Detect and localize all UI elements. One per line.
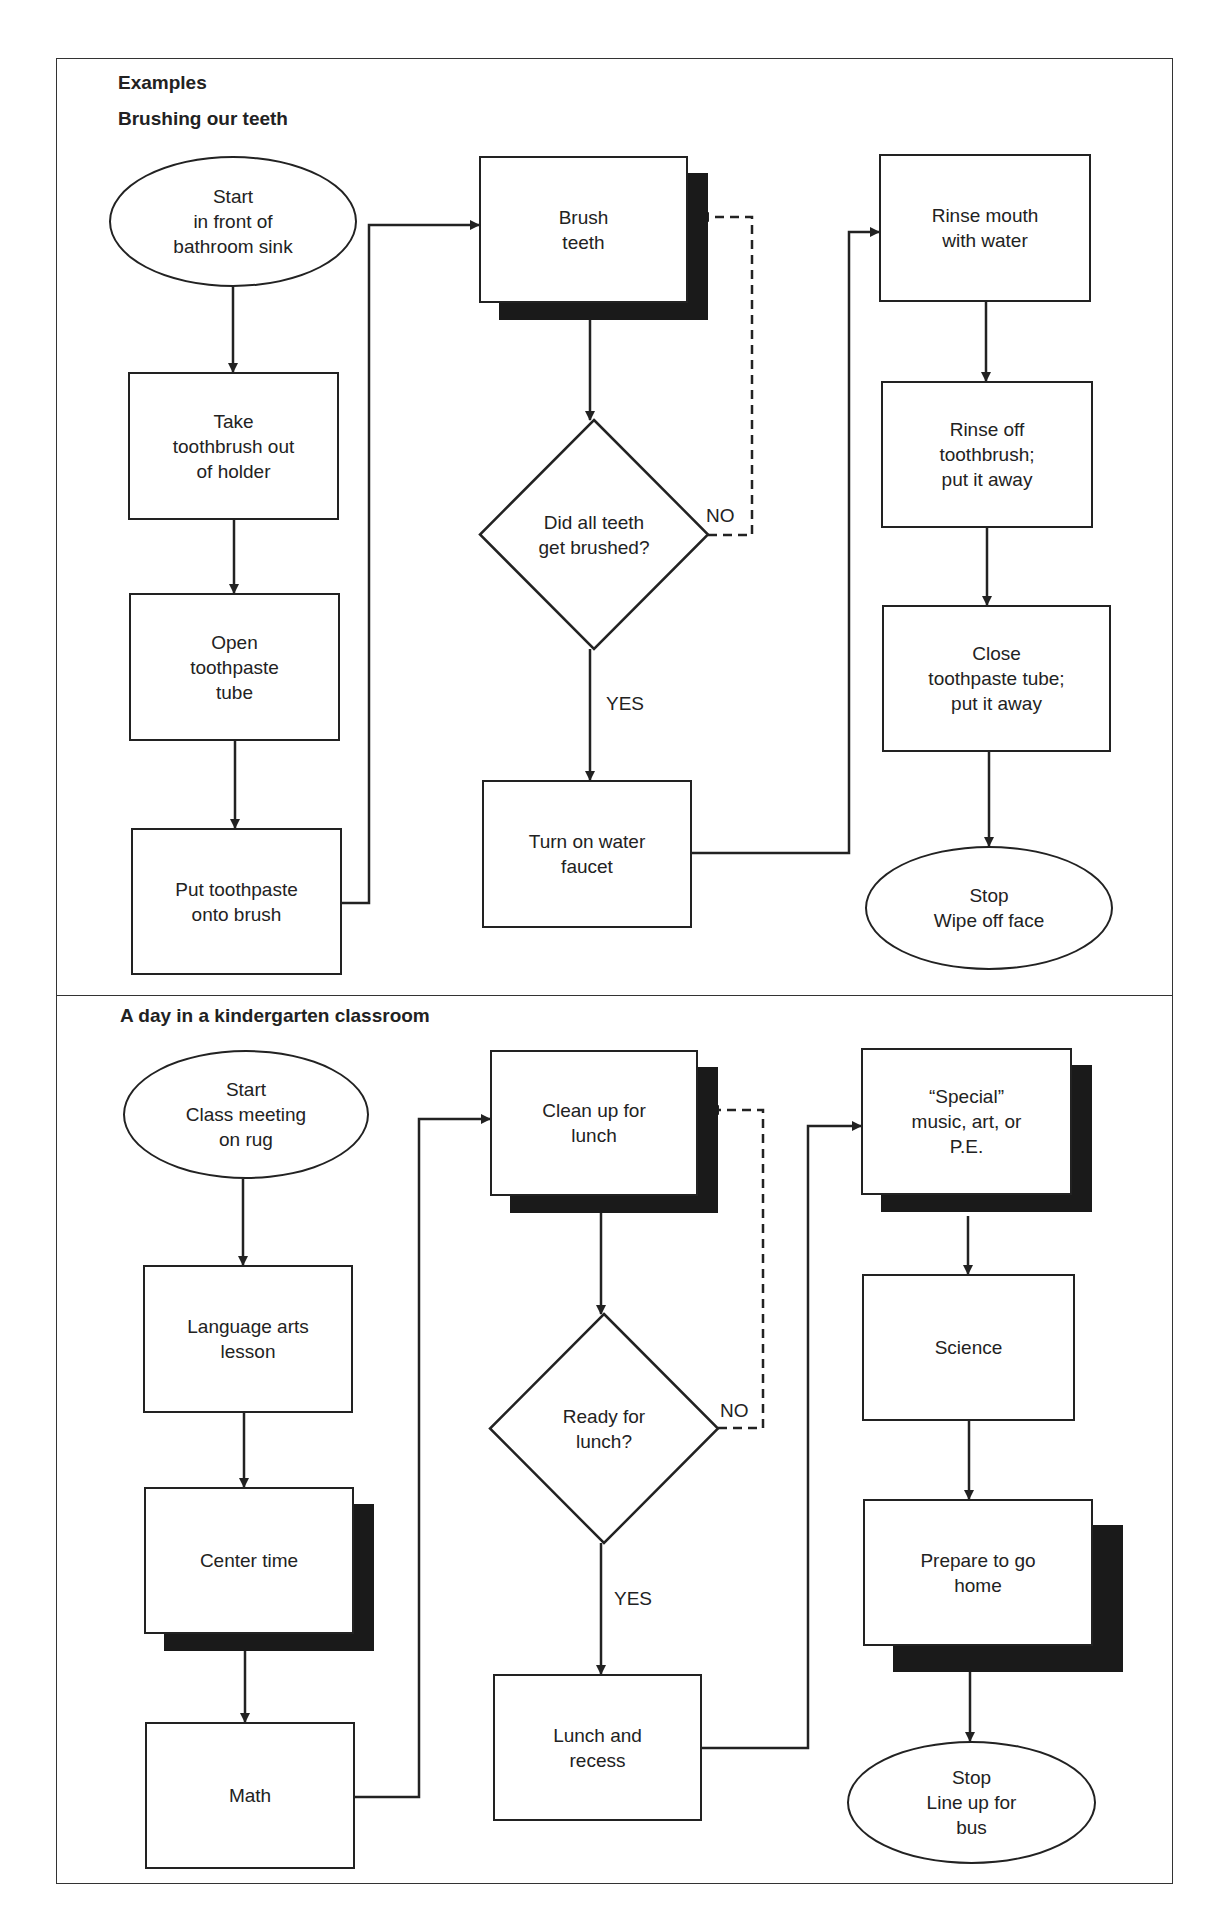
node-label: Stop Wipe off face [934,883,1045,933]
terminal-node-k-start: Start Class meeting on rug [123,1050,369,1179]
node-label: Stop Line up for bus [927,1765,1017,1840]
process-node-b-rinse-brush: Rinse off toothbrush; put it away [881,381,1093,528]
process-node-b-close: Close toothpaste tube; put it away [882,605,1111,752]
decision-node-k-ready: Ready for lunch? [490,1314,718,1543]
node-label: Start in front of bathroom sink [173,184,292,259]
node-label: Take toothbrush out of holder [173,409,294,484]
edge-label-yes: YES [614,1588,652,1610]
process-node-k-clean: Clean up for lunch [490,1050,698,1196]
edge-label-no: NO [720,1400,749,1422]
terminal-node-b-stop: Stop Wipe off face [865,846,1113,970]
node-label: Did all teeth get brushed? [539,510,650,560]
flow-arrow [692,232,879,853]
process-node-b-put: Put toothpaste onto brush [131,828,342,975]
node-label: Math [229,1783,271,1808]
process-node-b-water: Turn on water faucet [482,780,692,928]
node-label: Science [935,1335,1003,1360]
terminal-node-b-start: Start in front of bathroom sink [109,156,357,287]
decision-node-b-check: Did all teeth get brushed? [480,420,708,649]
process-node-k-center: Center time [144,1487,354,1634]
node-label: Clean up for lunch [542,1098,646,1148]
process-node-k-special: “Special” music, art, or P.E. [861,1048,1072,1195]
node-label: Close toothpaste tube; put it away [928,641,1064,716]
process-node-k-prepare: Prepare to go home [863,1499,1093,1646]
flowchart-canvas: Examples Brushing our teeth A day in a k… [0,0,1223,1905]
flow-arrow [702,1126,861,1748]
node-label: Put toothpaste onto brush [175,877,298,927]
process-node-k-lang: Language arts lesson [143,1265,353,1413]
edge-label-yes: YES [606,693,644,715]
flow-arrow [342,225,479,903]
process-node-b-open: Open toothpaste tube [129,593,340,741]
node-label: “Special” music, art, or P.E. [912,1084,1022,1159]
node-label: Open toothpaste tube [190,630,279,705]
node-label: Lunch and recess [553,1723,642,1773]
node-label: Prepare to go home [920,1548,1035,1598]
node-label: Start Class meeting on rug [186,1077,306,1152]
node-label: Turn on water faucet [529,829,646,879]
node-label: Ready for lunch? [563,1404,645,1454]
node-label: Center time [200,1548,298,1573]
edge-label-no: NO [706,505,735,527]
node-label: Rinse mouth with water [932,203,1039,253]
process-node-b-take: Take toothbrush out of holder [128,372,339,520]
process-node-k-science: Science [862,1274,1075,1421]
process-node-k-math: Math [145,1722,355,1869]
flow-arrow [355,1119,490,1797]
process-node-k-lunch: Lunch and recess [493,1674,702,1821]
process-node-b-brush: Brush teeth [479,156,688,303]
terminal-node-k-stop: Stop Line up for bus [847,1741,1096,1864]
node-label: Language arts lesson [187,1314,309,1364]
node-label: Brush teeth [559,205,609,255]
process-node-b-rinse-mouth: Rinse mouth with water [879,154,1091,302]
node-label: Rinse off toothbrush; put it away [939,417,1034,492]
